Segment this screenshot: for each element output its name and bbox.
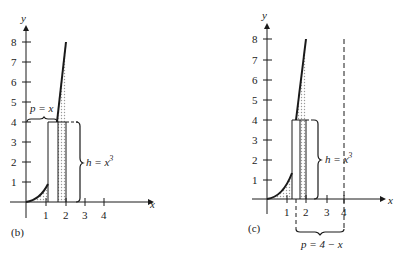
x-axis-arrow-icon (380, 196, 386, 202)
y-tick-5: 5 (252, 94, 258, 106)
y-tick-3: 3 (252, 134, 258, 146)
panel-label-b: (b) (11, 226, 24, 239)
x-tick-1: 1 (284, 206, 290, 218)
x-tick-2: 2 (63, 209, 69, 221)
x-tick-2: 2 (303, 206, 309, 218)
shaded-region-left (267, 173, 292, 199)
y-tick-2: 2 (252, 154, 258, 166)
y-tick-7: 7 (11, 56, 17, 68)
y-tick-1: 1 (252, 174, 258, 186)
y-tick-3: 3 (11, 136, 17, 148)
label-p: p = 4 − x (300, 238, 343, 250)
x-tick-4: 4 (101, 209, 107, 221)
brace-p (27, 117, 57, 122)
figure-b: 1 2 3 4 5 6 7 8 1 2 3 4 x y p = x h = x3… (10, 12, 155, 239)
shell-method-figures: 1 2 3 4 5 6 7 8 1 2 3 4 x y p = x h = x3… (0, 0, 414, 254)
label-h: h = x3 (325, 151, 352, 165)
y-tick-8: 8 (11, 36, 17, 48)
y-axis-label: y (20, 12, 26, 24)
x-tick-3: 3 (82, 209, 88, 221)
brace-h (314, 120, 321, 199)
x-axis-label: x (149, 198, 155, 210)
shaded-region-left (26, 184, 48, 202)
brace-h (76, 122, 83, 202)
y-tick-2: 2 (11, 156, 17, 168)
y-axis-arrow-icon (23, 25, 29, 31)
y-tick-5: 5 (11, 96, 17, 108)
y-tick-8: 8 (252, 33, 258, 45)
label-p: p = x (29, 102, 53, 114)
y-tick-6: 6 (11, 76, 17, 88)
brace-p (296, 229, 344, 235)
x-tick-3: 3 (324, 206, 330, 218)
y-axis-label: y (261, 9, 267, 21)
panel-label-c: (c) (248, 222, 261, 235)
y-tick-7: 7 (252, 54, 258, 66)
y-tick-6: 6 (252, 74, 258, 86)
y-tick-4: 4 (252, 114, 258, 126)
x-tick-1: 1 (43, 209, 49, 221)
figure-c: 1 2 3 4 5 6 7 8 1 2 3 4 x y h = x3 p = 4… (248, 9, 393, 250)
label-h: h = x3 (86, 154, 113, 168)
x-axis-label: x (387, 194, 393, 206)
y-axis-arrow-icon (264, 23, 270, 29)
y-tick-4: 4 (11, 116, 17, 128)
shaded-shell-strip (296, 39, 306, 199)
y-tick-1: 1 (11, 176, 17, 188)
